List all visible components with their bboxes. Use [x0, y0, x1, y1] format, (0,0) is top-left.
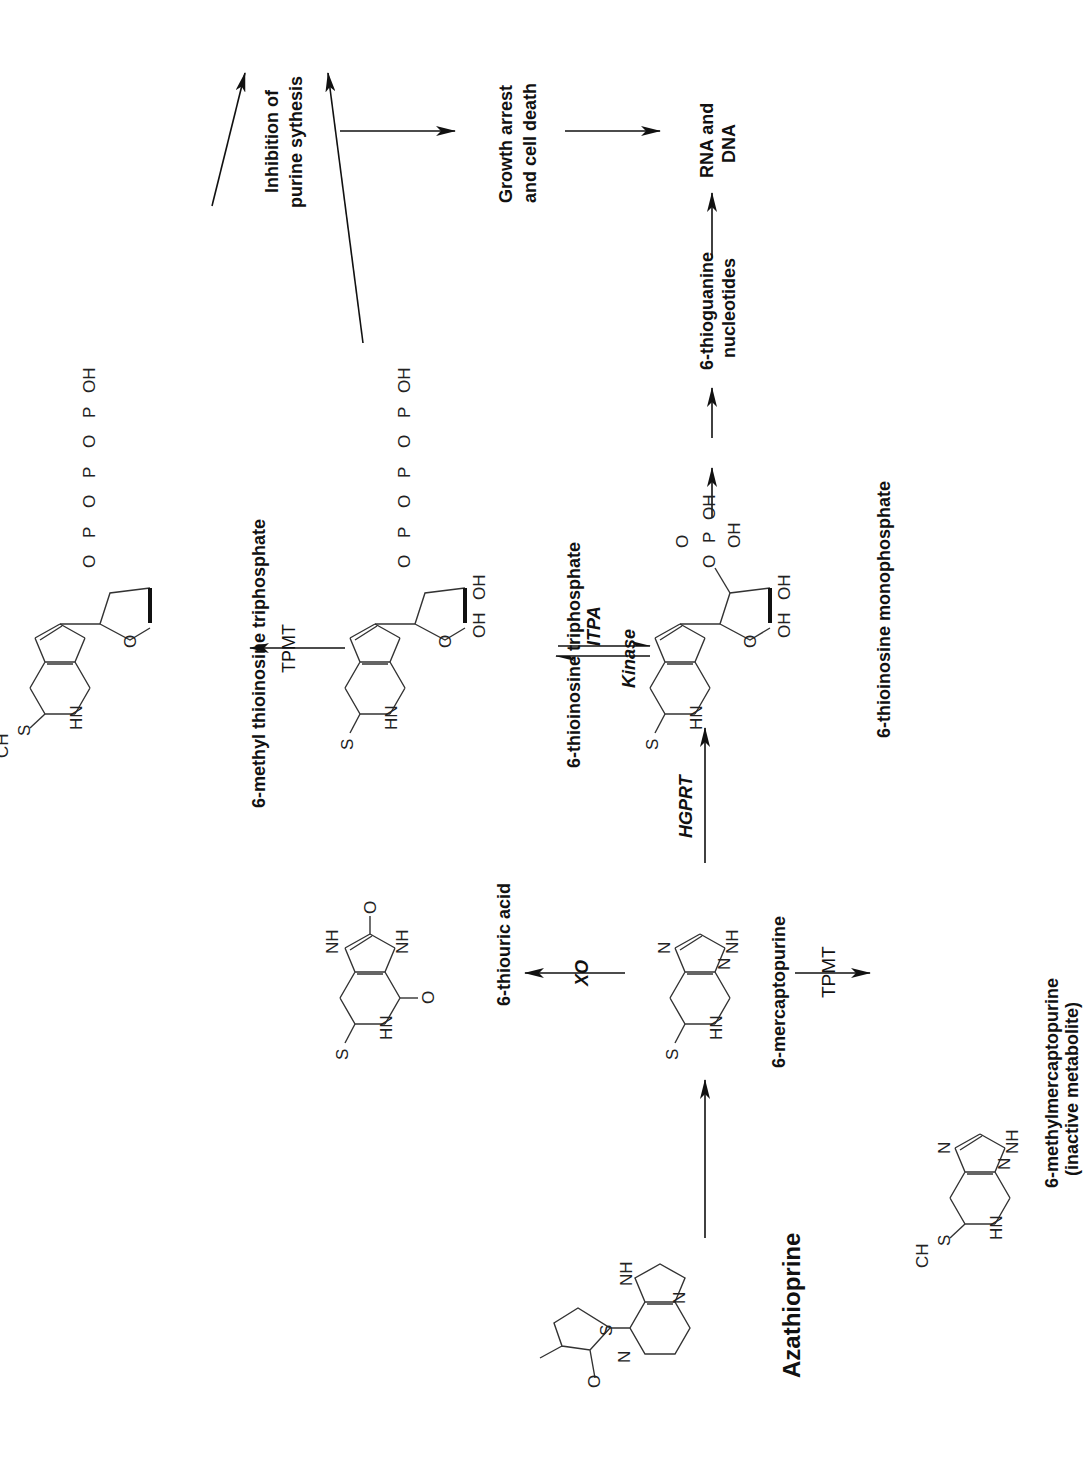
svg-text:OH: OH: [80, 368, 99, 394]
svg-text:HN: HN: [687, 705, 706, 730]
svg-text:NH: NH: [393, 929, 412, 954]
enzyme-tpmt-lower: TPMT: [818, 946, 839, 998]
svg-text:O: O: [121, 635, 140, 648]
svg-text:HN: HN: [382, 705, 401, 730]
label-6-methylmercaptopurine: 6-methylmercaptopurine: [1042, 978, 1062, 1188]
label-growth-arrest: Growth arrest: [496, 85, 516, 203]
svg-text:O: O: [700, 555, 719, 568]
svg-text:O: O: [436, 635, 455, 648]
label-dna: DNA: [719, 124, 739, 163]
enzyme-kinase: Kinase: [619, 629, 639, 688]
enzyme-xo: XO: [572, 960, 592, 987]
svg-text:CH: CH: [0, 733, 12, 758]
svg-text:P: P: [80, 407, 99, 418]
svg-text:P: P: [395, 467, 414, 478]
label-6-mercaptopurine: 6-mercaptopurine: [769, 916, 789, 1068]
label-inhibition-of: Inhibition of: [262, 89, 282, 193]
structure-6-methylmercaptopurine: S CH HN N N NH: [913, 1129, 1022, 1268]
svg-text:P: P: [80, 527, 99, 538]
svg-text:P: P: [700, 532, 719, 543]
svg-text:NH: NH: [617, 1261, 636, 1286]
svg-text:OH: OH: [775, 575, 794, 601]
label-6-thioinosine-triphosphate: 6-thioinosine triphosphate: [564, 542, 584, 768]
svg-text:N: N: [670, 1292, 689, 1304]
enzyme-hgprt: HGPRT: [676, 773, 696, 838]
svg-text:O: O: [395, 495, 414, 508]
svg-text:HN: HN: [377, 1015, 396, 1040]
svg-text:O: O: [741, 635, 760, 648]
svg-text:HN: HN: [67, 705, 86, 730]
svg-text:P: P: [395, 407, 414, 418]
svg-text:OH: OH: [700, 495, 719, 521]
svg-text:O: O: [395, 555, 414, 568]
enzyme-tpmt-upper: TPMT: [279, 624, 299, 673]
enzyme-itpa: ITPA: [584, 606, 604, 646]
label-nucleotides: nucleotides: [719, 258, 739, 358]
svg-text:S: S: [333, 1049, 352, 1060]
structure-azathioprine: N N NH S O: [540, 1261, 690, 1388]
svg-text:N: N: [655, 942, 674, 954]
svg-text:O: O: [395, 435, 414, 448]
label-azathioprine: Azathioprine: [778, 1233, 805, 1378]
svg-text:S: S: [935, 1235, 954, 1246]
svg-text:OH: OH: [470, 575, 489, 601]
arrow-titp-to-inhibition: [328, 73, 363, 343]
svg-text:O: O: [361, 901, 380, 914]
arrow-mettitp-to-inhibition: [212, 73, 245, 206]
pathway-diagram: Azathioprine 6-mercaptopurine 6-thiouric…: [0, 0, 1088, 1468]
svg-text:OH: OH: [470, 613, 489, 639]
svg-text:O: O: [80, 555, 99, 568]
label-cell-death: and cell death: [520, 83, 540, 203]
svg-text:O: O: [673, 535, 692, 548]
svg-text:S: S: [338, 739, 357, 750]
svg-text:OH: OH: [395, 368, 414, 394]
svg-text:OH: OH: [725, 523, 744, 549]
svg-text:N: N: [935, 1142, 954, 1154]
svg-text:S: S: [663, 1049, 682, 1060]
svg-text:N: N: [715, 958, 734, 970]
svg-text:NH: NH: [323, 929, 342, 954]
svg-text:O: O: [80, 435, 99, 448]
svg-text:N: N: [995, 1158, 1014, 1170]
svg-text:O: O: [80, 495, 99, 508]
svg-text:P: P: [80, 467, 99, 478]
structure-6-thiouric-acid: S O O HN NH NH: [323, 901, 438, 1060]
svg-text:P: P: [395, 527, 414, 538]
svg-text:O: O: [419, 991, 438, 1004]
svg-text:O: O: [585, 1375, 604, 1388]
label-inactive-metabolite: (inactive metabolite): [1062, 1002, 1082, 1176]
svg-text:N: N: [615, 1351, 634, 1363]
structure-6-thioinosine-monophosphate: S HN OH OH O O P O OH OH: [643, 495, 794, 751]
svg-text:S: S: [597, 1325, 616, 1336]
svg-text:CH: CH: [913, 1243, 932, 1268]
label-6-methyl-thioinosine-triphosphate: 6-methyl thioinosine triphosphate: [249, 519, 269, 808]
structure-6-mercaptopurine: S HN N N NH: [655, 929, 742, 1060]
svg-text:S: S: [15, 725, 34, 736]
structure-6-thioinosine-triphosphate: S HN O OH OH O P O P O P OH: [338, 368, 489, 751]
label-6-thiouric-acid: 6-thiouric acid: [494, 883, 514, 1006]
svg-text:S: S: [643, 739, 662, 750]
svg-text:NH: NH: [723, 929, 742, 954]
structure-6-methyl-thioinosine-triphosphate: S CH HN O O P O P O P OH: [0, 368, 150, 759]
svg-text:HN: HN: [987, 1215, 1006, 1240]
svg-text:OH: OH: [775, 613, 794, 639]
label-rna-and: RNA and: [697, 103, 717, 178]
svg-text:NH: NH: [1003, 1129, 1022, 1154]
pathway-canvas: Azathioprine 6-mercaptopurine 6-thiouric…: [0, 0, 1088, 1468]
svg-text:HN: HN: [707, 1015, 726, 1040]
label-purine-synthesis: purine sythesis: [286, 76, 306, 208]
label-6-thioguanine: 6-thioguanine: [697, 252, 717, 370]
label-6-thioinosine-monophosphate: 6-thioinosine monophosphate: [874, 481, 894, 738]
